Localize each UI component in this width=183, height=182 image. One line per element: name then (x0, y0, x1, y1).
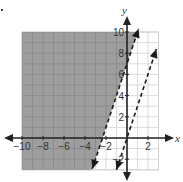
x-tick-label: −8 (37, 141, 49, 152)
x-axis-label: x (174, 132, 180, 144)
coordinate-plane: −10−8−6−4−22−2246810 x y (0, 0, 183, 182)
y-tick-label: 4 (118, 91, 124, 102)
x-tick-label: −4 (79, 141, 91, 152)
x-tick-label: 2 (145, 141, 151, 152)
y-tick-label: 6 (118, 69, 124, 80)
x-tick-label: −10 (14, 141, 31, 152)
x-tick-label: −6 (58, 141, 70, 152)
y-axis-label: y (121, 4, 127, 16)
y-tick-label: −2 (113, 154, 125, 165)
y-tick-label: 10 (113, 27, 125, 38)
y-tick-label: 8 (118, 48, 124, 59)
stray-mark (1, 9, 3, 11)
x-tick-label: −2 (100, 141, 112, 152)
y-tick-label: 2 (118, 112, 124, 123)
